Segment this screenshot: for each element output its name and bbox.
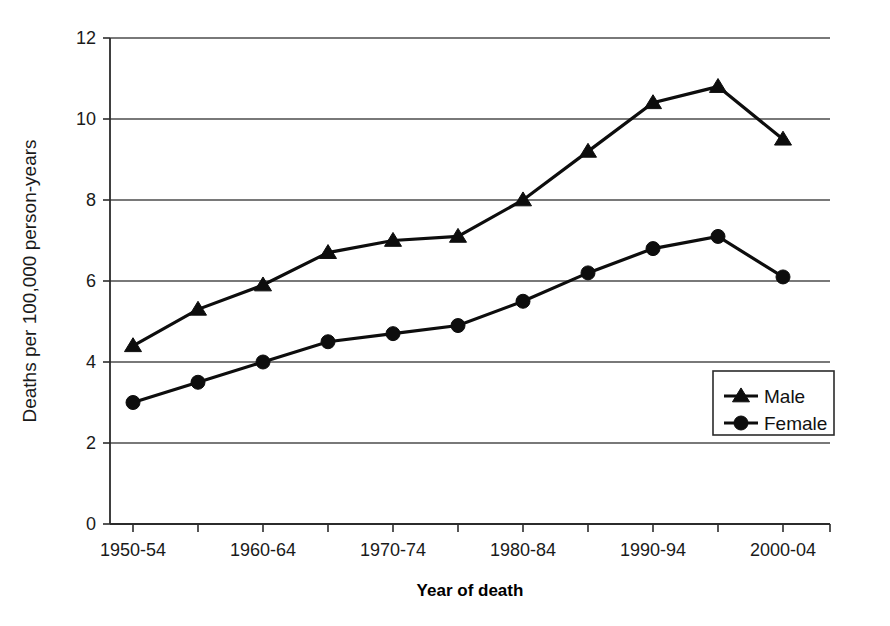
datapoint-female-2 <box>256 355 270 369</box>
legend-label-female: Female <box>764 413 827 434</box>
x-tick-label-1960-64: 1960-64 <box>230 540 296 560</box>
datapoint-female-9 <box>711 229 725 243</box>
datapoint-female-3 <box>321 335 335 349</box>
y-tick-label-10: 10 <box>76 109 96 129</box>
datapoint-female-5 <box>451 319 465 333</box>
datapoint-female-0 <box>126 396 140 410</box>
y-tick-label-2: 2 <box>86 433 96 453</box>
x-axis-title: Year of death <box>417 581 524 600</box>
legend-label-male: Male <box>764 386 805 407</box>
datapoint-female-4 <box>386 327 400 341</box>
x-tick-label-2000-04: 2000-04 <box>750 540 816 560</box>
datapoint-female-7 <box>581 266 595 280</box>
y-tick-label-4: 4 <box>86 352 96 372</box>
x-tick-label-1980-84: 1980-84 <box>490 540 556 560</box>
legend: MaleFemale <box>713 371 834 435</box>
y-axis-title: Deaths per 100,000 person-years <box>19 139 40 422</box>
datapoint-female-10 <box>776 270 790 284</box>
y-tick-label-12: 12 <box>76 28 96 48</box>
y-tick-label-8: 8 <box>86 190 96 210</box>
line-chart: 024681012 1950-541960-641970-741980-8419… <box>0 0 890 626</box>
chart-background <box>0 0 890 626</box>
y-tick-label-0: 0 <box>86 514 96 534</box>
y-tick-label-6: 6 <box>86 271 96 291</box>
datapoint-female-1 <box>191 375 205 389</box>
datapoint-female-8 <box>646 242 660 256</box>
x-tick-label-1950-54: 1950-54 <box>100 540 166 560</box>
chart-canvas: 024681012 1950-541960-641970-741980-8419… <box>0 0 890 626</box>
legend-marker-female-icon <box>734 416 748 430</box>
datapoint-female-6 <box>516 294 530 308</box>
x-tick-label-1990-94: 1990-94 <box>620 540 686 560</box>
x-tick-label-1970-74: 1970-74 <box>360 540 426 560</box>
